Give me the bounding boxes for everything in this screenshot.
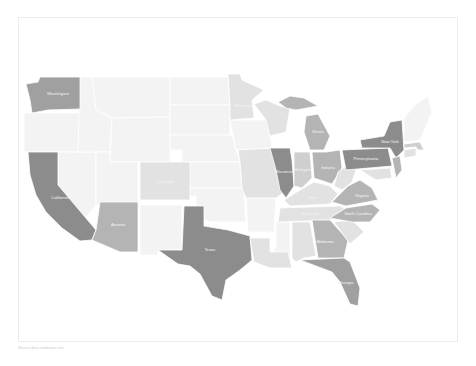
svg-text:Alabama: Alabama [317, 239, 334, 244]
svg-text:Michigan: Michigan [294, 167, 311, 172]
svg-text:California: California [51, 195, 69, 200]
svg-text:Minnesota: Minnesota [234, 103, 254, 108]
map-footer-attribution: Source data attribution text [18, 346, 64, 350]
state-new-jersey[interactable] [392, 156, 402, 178]
svg-text:Ohio: Ohio [308, 195, 318, 200]
svg-text:Wisconsin: Wisconsin [274, 169, 294, 174]
state-iowa[interactable] [230, 120, 272, 150]
svg-text:Indiana: Indiana [321, 165, 335, 170]
state-alabama[interactable] [292, 222, 316, 262]
state-kansas[interactable] [182, 162, 242, 188]
state-minnesota[interactable] [228, 74, 264, 120]
state-arkansas[interactable] [246, 198, 276, 232]
state-nebraska[interactable] [170, 135, 240, 162]
state-new-england-north[interactable] [404, 96, 432, 142]
svg-text:New York: New York [381, 139, 400, 144]
svg-text:Kentucky: Kentucky [301, 211, 319, 216]
svg-text:Arizona: Arizona [111, 222, 126, 227]
state-new-mexico[interactable] [140, 205, 182, 255]
state-oregon[interactable] [24, 113, 80, 152]
svg-text:Washington: Washington [47, 91, 70, 96]
svg-text:North Carolina: North Carolina [345, 211, 373, 216]
svg-text:Pennsylvania: Pennsylvania [354, 156, 380, 161]
state-connecticut[interactable] [404, 148, 416, 158]
svg-text:Colorado: Colorado [157, 179, 175, 184]
svg-text:Virginia: Virginia [355, 193, 370, 198]
state-maryland[interactable] [360, 168, 392, 180]
svg-text:Illinois: Illinois [312, 129, 324, 134]
svg-text:Texas: Texas [205, 247, 216, 252]
svg-text:Georgia: Georgia [339, 280, 355, 285]
state-montana[interactable] [92, 77, 170, 118]
state-wyoming[interactable] [110, 117, 170, 162]
state-south-dakota[interactable] [170, 105, 230, 135]
us-choropleth-map: Washington California Arizona Colorado T… [0, 0, 476, 366]
state-north-dakota[interactable] [170, 77, 230, 105]
